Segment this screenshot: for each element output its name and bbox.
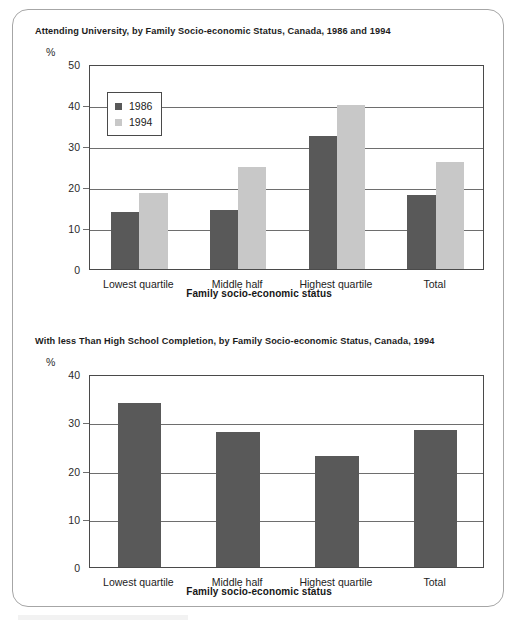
y-axis-tick-label: 30 [68,417,80,429]
legend-item: 1994 [115,114,152,130]
y-axis-tick-mark [83,423,89,424]
bar [139,193,167,269]
y-axis-tick-label: 20 [68,182,80,194]
plot-area [89,375,484,568]
bar [337,105,365,269]
y-axis-tick-mark [83,188,89,189]
bar [238,167,266,270]
y-axis-tick-mark [83,520,89,521]
y-axis-tick-mark [83,229,89,230]
bar [414,430,457,567]
chart-legend: 19861994 [107,92,162,136]
x-axis-title: Family socio-economic status [13,288,505,299]
y-axis-unit-label: % [46,46,55,58]
gridline [90,148,483,149]
chart-title: With less Than High School Completion, b… [35,336,435,346]
chart-title: Attending University, by Family Socio-ec… [35,26,391,36]
y-axis-tick-mark [83,472,89,473]
legend-swatch-icon [115,103,122,110]
y-axis-tick-label: 20 [68,466,80,478]
bar [407,195,435,269]
bar [111,212,139,269]
legend-item: 1986 [115,98,152,114]
legend-swatch-icon [115,119,122,126]
legend-item-label: 1986 [129,101,152,112]
bar [118,403,161,567]
y-axis-tick-label: 0 [74,562,80,574]
y-axis-tick-mark [83,106,89,107]
gridline [90,189,483,190]
y-axis-tick-mark [83,147,89,148]
bar [315,456,358,567]
x-axis-title: Family socio-economic status [13,586,505,597]
legend-item-label: 1994 [129,117,152,128]
chart-panel-attending-university: Attending University, by Family Socio-ec… [13,10,505,310]
y-axis-tick-label: 10 [68,223,80,235]
bar [210,210,238,269]
bar [216,432,259,567]
y-axis-tick-label: 50 [68,59,80,71]
scanned-page: Attending University, by Family Socio-ec… [0,0,519,627]
y-axis-unit-label: % [46,356,55,368]
y-axis-tick-label: 40 [68,100,80,112]
bar [436,162,464,269]
scan-artifact [18,615,188,620]
y-axis-tick-label: 0 [74,264,80,276]
y-axis-tick-label: 30 [68,141,80,153]
y-axis-tick-label: 40 [68,369,80,381]
page-frame: Attending University, by Family Socio-ec… [12,9,504,607]
y-axis-tick-label: 10 [68,514,80,526]
bar [309,136,337,269]
chart-panel-less-than-high-school: With less Than High School Completion, b… [13,310,505,606]
